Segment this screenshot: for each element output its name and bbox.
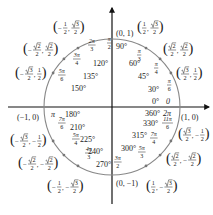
angle-label: 360°2π [145, 109, 172, 118]
radian-label: 11π6 [162, 116, 173, 129]
svg-text:): ) [197, 150, 202, 167]
svg-text:−: − [32, 138, 36, 146]
svg-text:): ) [198, 64, 203, 81]
svg-text:2: 2 [183, 50, 186, 57]
degree-label: 315° [132, 131, 147, 140]
fraction: 32 [150, 20, 158, 34]
svg-text:2: 2 [186, 135, 189, 142]
circle-point-dot [169, 140, 172, 143]
svg-text:5π: 5π [59, 68, 66, 74]
radian-label: 7π6 [58, 116, 66, 129]
svg-text:): ) [42, 64, 47, 81]
coordinate-label: (12,−32) [146, 177, 178, 194]
svg-text:3: 3 [87, 154, 90, 160]
svg-text:): ) [159, 18, 164, 35]
angle-label: 300°5π3 [121, 144, 146, 159]
svg-text:3: 3 [185, 66, 188, 73]
svg-text:π: π [138, 48, 142, 54]
svg-text:): ) [173, 177, 178, 194]
degree-label: 180° [65, 110, 80, 119]
angle-label: 270°3π2 [96, 155, 122, 169]
svg-text:−: − [15, 138, 19, 146]
angle-label: 315°7π4 [132, 131, 158, 145]
degree-label: 225° [80, 135, 95, 144]
svg-text:3: 3 [187, 127, 190, 134]
degree-label: 210° [70, 123, 85, 132]
coordinate-label: (22,−22) [166, 150, 202, 167]
fraction: 32 [71, 20, 79, 34]
coordinate-label: (32,12) [176, 64, 203, 81]
svg-text:2: 2 [194, 74, 197, 81]
svg-text:2: 2 [74, 28, 77, 35]
svg-text:3: 3 [24, 133, 27, 140]
svg-text:(: ( [137, 18, 142, 35]
svg-text:): ) [54, 154, 59, 171]
svg-text:4: 4 [74, 140, 77, 146]
coordinate-label: (−22,−22) [18, 154, 59, 171]
fraction: 22 [188, 152, 196, 166]
point-neg1-0: (−1, 0) [17, 113, 39, 122]
svg-text:6: 6 [168, 86, 171, 92]
coordinate-label: (−12,−32) [47, 177, 84, 194]
svg-text:2: 2 [28, 74, 31, 81]
svg-text:−: − [23, 161, 27, 169]
radian-label: 7π4 [150, 131, 158, 144]
svg-text:3: 3 [155, 20, 158, 27]
radian-label: π2 [107, 36, 112, 49]
svg-text:2: 2 [175, 152, 178, 159]
svg-text:3π: 3π [114, 155, 122, 161]
svg-text:,: , [190, 71, 192, 79]
degree-label: 0° [152, 97, 159, 106]
fraction: 22 [45, 156, 53, 170]
svg-text:2: 2 [193, 152, 196, 159]
svg-text:7π: 7π [151, 131, 158, 137]
degree-label: 150° [71, 84, 86, 93]
fraction: 12 [57, 179, 61, 193]
svg-text:4: 4 [155, 69, 158, 75]
angle-label: 150°5π6 [58, 68, 86, 93]
svg-text:2: 2 [38, 141, 41, 148]
angle-label: 180°π [51, 110, 80, 119]
angle-label: 90°π2 [107, 36, 127, 51]
angle-label: 330°11π6 [143, 116, 173, 129]
unit-circle-diagram: 0°030°π645°π460°π390°π2120°2π3135°3π4150… [0, 0, 213, 215]
svg-text:1: 1 [143, 20, 146, 27]
fraction: 22 [168, 42, 176, 56]
fraction: 12 [151, 179, 155, 193]
angle-label: 0°0 [152, 97, 170, 106]
radian-label: 3π2 [114, 155, 122, 168]
fraction: 32 [181, 66, 189, 80]
radian-label: 5π6 [58, 68, 66, 81]
circle-point-dot [77, 164, 80, 167]
fraction: 32 [164, 179, 172, 193]
fraction: 22 [180, 42, 188, 56]
svg-text:,: , [62, 184, 64, 192]
degree-label: 90° [116, 42, 127, 51]
svg-text:,: , [147, 25, 149, 33]
svg-text:2: 2 [50, 156, 53, 163]
svg-text:): ) [42, 131, 47, 148]
svg-text:2: 2 [172, 42, 175, 49]
point-0-neg1: (0, −1) [116, 179, 138, 188]
svg-text:2: 2 [48, 50, 51, 57]
angle-label: 120°2π3 [88, 38, 108, 68]
svg-text:(: ( [166, 150, 171, 167]
svg-text:−: − [40, 161, 44, 169]
svg-text:−: − [65, 184, 69, 192]
svg-text:3: 3 [140, 153, 143, 159]
svg-text:(: ( [163, 40, 168, 57]
fraction: 12 [63, 20, 67, 34]
svg-text:2: 2 [152, 187, 155, 194]
svg-text:2: 2 [108, 44, 111, 50]
svg-text:4: 4 [152, 139, 155, 145]
angle-label: 30°π6 [148, 78, 172, 94]
point-0-1: (0, 1) [116, 29, 134, 38]
radian-label: 0 [166, 97, 170, 106]
svg-text:,: , [42, 47, 44, 55]
circle-point-dot [52, 72, 55, 75]
radian-label: π4 [154, 61, 159, 74]
radian-label: π3 [137, 48, 142, 61]
svg-text:): ) [205, 125, 210, 142]
svg-text:2: 2 [116, 163, 119, 169]
degree-label: 45° [138, 72, 149, 81]
